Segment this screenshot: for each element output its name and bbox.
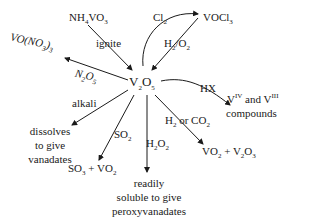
- vocl3-label: VOCl3: [203, 12, 233, 23]
- compounds-label: compounds: [226, 108, 277, 119]
- hx-label: HX: [200, 83, 216, 94]
- cl2-label: Cl2: [153, 12, 167, 23]
- viv-viii-label: VIV and VIII: [227, 94, 278, 105]
- readily-line: readily: [104, 176, 194, 190]
- dissolves-line: to give: [24, 138, 76, 152]
- alkali-label: alkali: [72, 98, 96, 109]
- nh4vo3-label: NH4VO3: [69, 12, 108, 23]
- readily-line: soluble to give: [104, 190, 194, 204]
- h2o2-label: H2O2: [146, 138, 169, 149]
- h2-co2-label: H2 or CO2: [165, 115, 210, 126]
- readily-label: readily soluble to give peroxyvanadates: [104, 176, 194, 218]
- readily-line: peroxyvanadates: [104, 204, 194, 218]
- dissolves-label: dissolves to give vanadates: [24, 124, 76, 166]
- vo2-v2o3-label: VO2 + V2O3: [202, 146, 256, 157]
- v2o5-center: V2O5: [129, 76, 155, 88]
- so3-vo2-label: SO3 + VO2: [68, 163, 116, 174]
- ignite-label: ignite: [96, 38, 121, 49]
- dissolves-line: dissolves: [24, 124, 76, 138]
- h2o2-top-label: H2/O2: [164, 38, 190, 49]
- so2-label: SO2: [114, 129, 132, 140]
